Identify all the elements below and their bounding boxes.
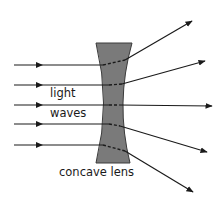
concave-lens-label: concave lens bbox=[59, 167, 134, 179]
incoming-arrowheads bbox=[36, 62, 43, 148]
arrowhead-icon bbox=[36, 121, 43, 127]
light-label: light bbox=[50, 88, 76, 100]
arrowhead-icon bbox=[36, 62, 43, 68]
arrowhead-icon bbox=[36, 142, 43, 148]
outgoing-ray-2 bbox=[122, 61, 205, 84]
arrowhead-icon bbox=[36, 102, 43, 108]
outgoing-ray-3 bbox=[119, 105, 212, 106]
arrowhead-icon bbox=[36, 82, 43, 88]
outgoing-ray-4 bbox=[120, 126, 207, 152]
incoming-rays bbox=[14, 65, 109, 145]
outgoing-ray-5 bbox=[125, 151, 193, 192]
waves-label: waves bbox=[50, 108, 86, 120]
outgoing-ray-1 bbox=[125, 21, 192, 60]
